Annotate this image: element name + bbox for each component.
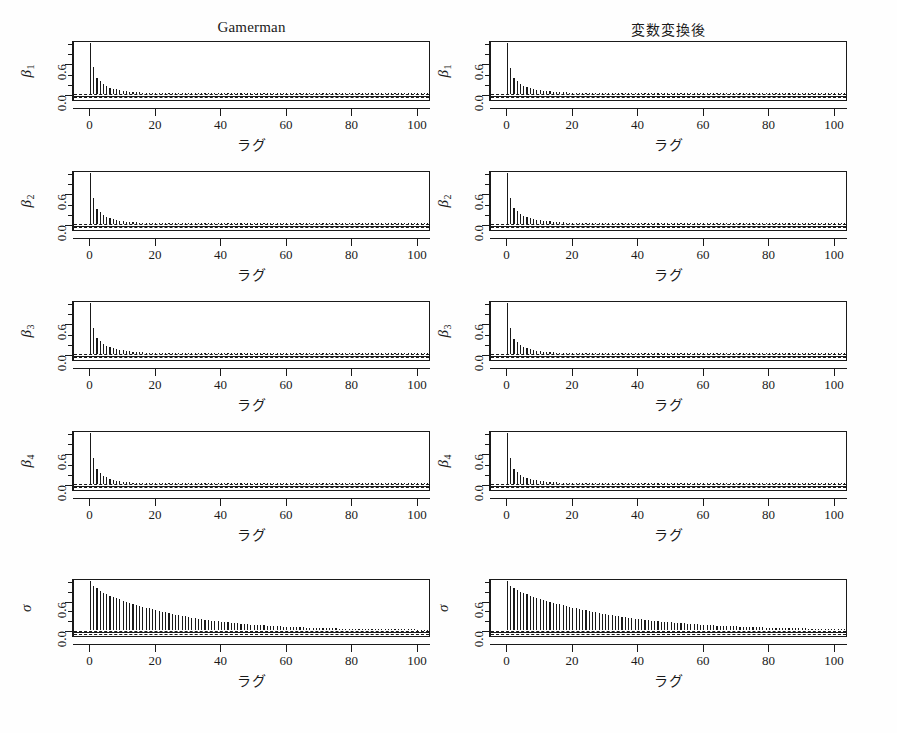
acf-spike xyxy=(394,93,395,94)
acf-spike xyxy=(517,342,518,353)
acf-spike xyxy=(335,223,336,224)
acf-spike xyxy=(424,223,425,224)
acf-spike xyxy=(651,353,652,354)
acf-spike xyxy=(381,93,382,94)
confidence-band-lower xyxy=(491,97,846,98)
x-tick-label: 20 xyxy=(565,653,578,669)
acf-spike xyxy=(674,353,675,354)
x-tick xyxy=(637,499,638,506)
acf-spike xyxy=(507,433,508,484)
x-tick xyxy=(89,645,90,652)
acf-spike xyxy=(421,630,422,631)
x-tick-label: 40 xyxy=(214,653,227,669)
confidence-band-upper xyxy=(491,94,846,95)
x-tick xyxy=(768,645,769,652)
y-tick-label: 0.6 xyxy=(54,324,70,340)
acf-spike xyxy=(385,353,386,354)
acf-spike xyxy=(841,223,842,224)
x-tick-label: 20 xyxy=(565,507,578,523)
acf-spike xyxy=(417,483,418,484)
acf-spike xyxy=(556,353,557,354)
acf-spike xyxy=(664,223,665,224)
confidence-band-upper xyxy=(491,354,846,355)
acf-spike xyxy=(677,93,678,94)
acf-spike xyxy=(648,223,649,224)
x-tick xyxy=(286,499,287,506)
acf-spike xyxy=(638,483,639,484)
acf-spike xyxy=(93,67,94,93)
acf-spike xyxy=(168,223,169,224)
acf-spike xyxy=(831,353,832,354)
acf-spike xyxy=(667,353,668,354)
acf-spike xyxy=(342,223,343,224)
acf-spike xyxy=(313,353,314,354)
acf-spike xyxy=(631,223,632,224)
y-tick-minor xyxy=(68,592,73,593)
acf-spike xyxy=(677,483,678,484)
x-axis: 020406080100 xyxy=(73,498,430,505)
acf-spike xyxy=(510,198,511,223)
param-subscript: 2 xyxy=(25,195,36,200)
acf-spike xyxy=(690,353,691,354)
acf-spike xyxy=(142,352,143,354)
acf-spike xyxy=(378,483,379,484)
acf-spike xyxy=(592,353,593,354)
x-tick-label: 60 xyxy=(279,117,292,133)
acf-spike xyxy=(96,78,97,94)
acf-spike xyxy=(825,353,826,354)
acf-spike xyxy=(152,483,153,484)
acf-spike xyxy=(697,223,698,224)
acf-spike xyxy=(661,483,662,484)
acf-spike xyxy=(103,344,104,354)
acf-spike xyxy=(543,481,544,484)
acf-spike xyxy=(208,353,209,354)
acf-spike xyxy=(713,223,714,224)
acf-spike xyxy=(510,586,511,630)
acf-spike xyxy=(414,629,415,630)
acf-spike xyxy=(427,93,428,94)
x-tick xyxy=(351,239,352,246)
y-tick-minor xyxy=(68,582,73,583)
acf-spike xyxy=(582,483,583,484)
y-tick-minor xyxy=(485,215,490,216)
acf-spike xyxy=(162,353,163,354)
acf-spike xyxy=(736,483,737,484)
x-tick-label: 0 xyxy=(86,377,93,393)
acf-spike xyxy=(231,223,232,224)
acf-spike xyxy=(221,93,222,94)
acf-spike xyxy=(815,223,816,224)
acf-spike xyxy=(411,93,412,94)
acf-spike xyxy=(703,625,704,630)
x-tick xyxy=(89,369,90,376)
acf-spike xyxy=(700,223,701,224)
acf-spike xyxy=(96,588,97,630)
acf-spike xyxy=(625,617,626,630)
x-axis-title: ラグ xyxy=(73,134,430,154)
acf-spike xyxy=(329,628,330,630)
acf-spike xyxy=(182,353,183,354)
x-tick-label: 60 xyxy=(696,117,709,133)
acf-spike xyxy=(641,619,642,630)
acf-spike xyxy=(96,338,97,354)
acf-spike xyxy=(661,223,662,224)
acf-spike xyxy=(286,93,287,94)
acf-spike xyxy=(316,223,317,224)
acf-spike xyxy=(126,602,127,630)
acf-spike xyxy=(342,93,343,94)
acf-spike xyxy=(563,353,564,354)
acf-spike xyxy=(599,353,600,354)
acf-spike xyxy=(208,483,209,484)
acf-spike xyxy=(543,600,544,630)
acf-spike xyxy=(756,93,757,94)
acf-spike xyxy=(417,353,418,354)
acf-spike xyxy=(674,623,675,630)
acf-spike xyxy=(401,483,402,484)
acf-spike xyxy=(214,93,215,94)
acf-spike xyxy=(237,483,238,484)
acf-spike xyxy=(536,351,537,354)
acf-spike xyxy=(224,622,225,630)
acf-spike xyxy=(553,482,554,484)
acf-spike xyxy=(198,619,199,630)
acf-spike xyxy=(283,353,284,354)
acf-spike xyxy=(549,482,550,484)
